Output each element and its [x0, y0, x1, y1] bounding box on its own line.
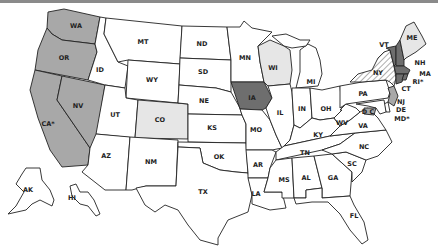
label-tx: TX	[198, 188, 207, 196]
label-mt: MT	[138, 38, 149, 46]
label-ar: AR	[253, 161, 263, 169]
label-in: IN	[298, 105, 306, 113]
label-ca: CA*	[41, 120, 55, 128]
label-md: MD*	[394, 115, 410, 123]
label-oh: OH	[321, 105, 332, 113]
state-ks[interactable]	[188, 114, 246, 143]
label-wa: WA	[70, 22, 82, 30]
label-va: VA	[358, 122, 368, 130]
label-ri: RI*	[413, 78, 424, 86]
label-ne: NE	[199, 97, 209, 105]
label-nc: NC	[359, 143, 369, 151]
label-de: DE	[396, 106, 406, 114]
label-ny: NY	[373, 69, 383, 77]
label-nh: NH	[415, 59, 426, 67]
label-dc: D C	[362, 108, 375, 116]
label-il: IL	[277, 109, 284, 117]
label-nd: ND	[197, 40, 208, 48]
label-or: OR	[59, 54, 70, 62]
label-nv: NV	[73, 102, 83, 110]
state-ma[interactable]	[394, 66, 410, 74]
label-tn: TN	[300, 149, 310, 157]
us-map: WA OR CA* NV ID MT WY UT CO AZ NM ND SD …	[0, 0, 438, 249]
label-ky: KY	[313, 131, 323, 139]
label-co: CO	[155, 116, 166, 124]
label-ut: UT	[110, 111, 120, 119]
label-ma: MA	[419, 70, 431, 78]
label-al: AL	[301, 174, 310, 182]
label-wv: WV	[336, 119, 348, 127]
label-ok: OK	[214, 153, 226, 161]
state-ne[interactable]	[178, 85, 242, 115]
label-mi: MI	[307, 78, 316, 86]
label-ga: GA	[328, 174, 338, 182]
label-pa: PA	[358, 90, 367, 98]
label-mo: MO	[250, 126, 262, 134]
label-ms: MS	[278, 176, 289, 184]
label-ks: KS	[207, 124, 217, 132]
label-mn: MN	[239, 54, 251, 62]
label-nj: NJ	[397, 98, 405, 106]
label-az: AZ	[101, 152, 111, 160]
state-ny[interactable]	[350, 50, 396, 86]
label-nm: NM	[145, 158, 157, 166]
label-ak: AK	[23, 186, 34, 194]
label-sd: SD	[198, 68, 209, 76]
label-sc: SC	[347, 160, 357, 168]
label-wy: WY	[146, 76, 158, 84]
label-id: ID	[96, 66, 104, 74]
label-wi: WI	[268, 64, 278, 72]
label-hi: HI	[68, 194, 76, 202]
label-fl: FL	[350, 212, 359, 220]
label-me: ME	[407, 34, 418, 42]
label-vt: VT	[379, 41, 389, 49]
label-ct: CT	[401, 85, 411, 93]
label-ia: IA	[248, 94, 255, 102]
label-la: LA	[251, 190, 260, 198]
